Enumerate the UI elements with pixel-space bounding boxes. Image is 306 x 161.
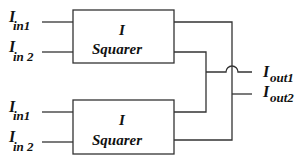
top-block-subtitle: Squarer <box>92 41 142 57</box>
bottom-input1-label: I in1 <box>8 98 30 123</box>
top-input1-label: I in1 <box>8 8 30 33</box>
svg-text:in 2: in 2 <box>13 49 34 64</box>
svg-text:out2: out2 <box>270 90 294 105</box>
bottom-input2-label: I in 2 <box>8 128 34 154</box>
svg-text:I: I <box>262 63 270 80</box>
bottom-block-subtitle: Squarer <box>92 132 142 148</box>
svg-text:in1: in1 <box>13 108 30 123</box>
svg-text:out1: out1 <box>270 70 294 85</box>
svg-text:I: I <box>262 83 270 100</box>
output1-wire-with-crossover <box>206 66 252 72</box>
cross-wire-inner <box>174 52 206 112</box>
output2-label: I out2 <box>262 83 294 105</box>
squarer-circuit-diagram: I Squarer I in1 I in 2 I Squarer I in1 I… <box>0 0 306 161</box>
bottom-squarer-block: I Squarer <box>73 100 174 154</box>
output1-label: I out1 <box>262 63 294 85</box>
cross-wire-outer <box>174 22 232 140</box>
svg-text:in 2: in 2 <box>13 139 34 154</box>
bottom-block-title: I <box>118 112 126 128</box>
top-input2-label: I in 2 <box>8 38 34 64</box>
top-squarer-block: I Squarer <box>73 10 174 63</box>
top-block-title: I <box>118 22 126 38</box>
svg-text:in1: in1 <box>13 18 30 33</box>
